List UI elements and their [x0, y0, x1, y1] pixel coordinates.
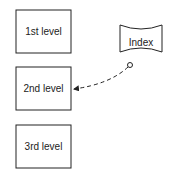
connector-circle-icon [128, 63, 133, 68]
index-label: Index [129, 37, 153, 48]
index-to-2nd-level-connector [74, 63, 133, 90]
box-1st-level: 1st level [16, 10, 71, 53]
box-3rd-level-label: 3rd level [25, 141, 63, 152]
arrow-icon [74, 67, 128, 89]
diagram-canvas: 1st level 2nd level 3rd level Index [0, 0, 175, 173]
box-3rd-level: 3rd level [16, 125, 71, 168]
box-2nd-level-label: 2nd level [23, 83, 63, 94]
box-1st-level-label: 1st level [25, 26, 62, 37]
box-2nd-level: 2nd level [16, 67, 71, 110]
index-storage-icon: Index [120, 25, 162, 52]
